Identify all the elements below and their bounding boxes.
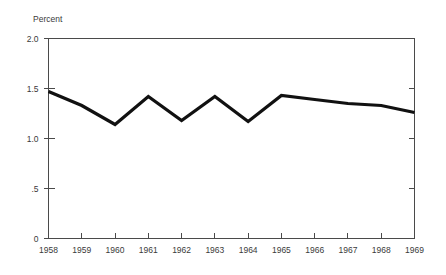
chart-figure: 0.51.01.52.0 195819591960196119621963196… [0,0,446,275]
x-tick-label-2: 1960 [106,245,125,255]
line-chart: 0.51.01.52.0 195819591960196119621963196… [0,0,446,275]
x-tick-label-3: 1961 [139,245,158,255]
x-tick-label-5: 1963 [205,245,224,255]
y-tick-label-3: 1.5 [27,84,39,94]
y-tick-label-1: .5 [31,184,38,194]
y-tick-label-4: 2.0 [27,34,39,44]
x-tick-label-8: 1966 [305,245,324,255]
x-tick-label-4: 1962 [172,245,191,255]
y-tick-label-2: 1.0 [27,134,39,144]
x-tick-label-1: 1959 [72,245,91,255]
y-tick-label-0: 0 [34,234,39,244]
y-axis-title: Percent [33,14,63,24]
x-tick-label-7: 1965 [272,245,291,255]
x-tick-label-0: 1958 [39,245,58,255]
x-tick-label-10: 1968 [372,245,391,255]
x-tick-label-11: 1969 [405,245,424,255]
chart-background [0,0,446,275]
x-tick-label-6: 1964 [239,245,258,255]
x-tick-label-9: 1967 [338,245,357,255]
